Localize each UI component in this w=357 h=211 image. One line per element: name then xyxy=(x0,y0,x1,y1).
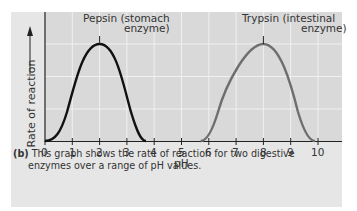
figure-panel: Pepsin (stomach enzyme) Trypsin (intesti… xyxy=(11,12,342,207)
caption-line2: enzymes over a range of pH values. xyxy=(13,160,333,172)
pepsin-label-line2: enzyme) xyxy=(124,23,170,34)
y-axis-label: Rate of reaction xyxy=(26,59,37,149)
chart-plot-area xyxy=(11,12,342,152)
arrow-up-icon xyxy=(27,26,33,36)
figure-caption: (b) This graph shows the rate of reactio… xyxy=(13,148,333,172)
caption-line1: This graph shows the rate of reaction fo… xyxy=(29,148,295,159)
trypsin-label-line2: enzyme) xyxy=(301,23,347,34)
caption-tag: (b) xyxy=(13,148,29,159)
